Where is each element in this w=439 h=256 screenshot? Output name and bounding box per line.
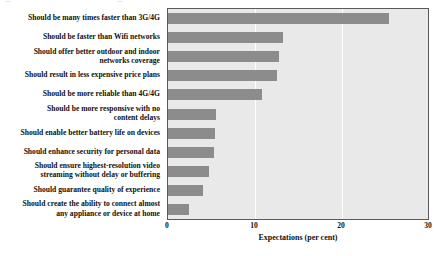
category-label: Should ensure highest-resolution video s… <box>0 161 160 179</box>
category-label: Should enable better battery life on dev… <box>0 128 160 137</box>
x-tick-10: 10 <box>250 221 258 230</box>
bar <box>168 32 283 43</box>
category-label: Should enhance security for personal dat… <box>0 147 160 156</box>
bar <box>168 185 203 196</box>
plot-area <box>167 8 429 220</box>
bar <box>168 89 262 100</box>
bar-chart: Should be many times faster than 3G/4GSh… <box>0 0 439 256</box>
bar <box>168 166 209 177</box>
category-label: Should be more responsive with no conten… <box>0 104 160 122</box>
x-tick-0: 0 <box>165 221 169 230</box>
x-tick-30: 30 <box>424 221 432 230</box>
category-axis-labels: Should be many times faster than 3G/4GSh… <box>0 8 164 220</box>
category-label: Should be faster than Wifi networks <box>0 32 160 41</box>
category-label: Should offer better outdoor and indoor n… <box>0 47 160 65</box>
scan-artifact <box>6 1 10 2</box>
x-axis-title: Expectations (per cent) <box>167 233 429 242</box>
bar <box>168 109 216 120</box>
x-axis-ticks: 0 10 20 30 <box>167 221 429 233</box>
category-label: Should be more reliable than 4G/4G <box>0 89 160 98</box>
bar <box>168 13 389 24</box>
bar <box>168 70 277 81</box>
bar <box>168 51 279 62</box>
bar <box>168 204 189 215</box>
x-tick-20: 20 <box>337 221 345 230</box>
category-label: Should be many times faster than 3G/4G <box>0 13 160 22</box>
category-label: Should guarantee quality of experience <box>0 185 160 194</box>
category-label: Should create the ability to connect alm… <box>0 199 160 217</box>
bar <box>168 147 214 158</box>
bars-layer <box>168 9 428 219</box>
bar <box>168 128 215 139</box>
scan-artifact <box>118 1 122 2</box>
category-label: Should result in less expensive price pl… <box>0 70 160 79</box>
